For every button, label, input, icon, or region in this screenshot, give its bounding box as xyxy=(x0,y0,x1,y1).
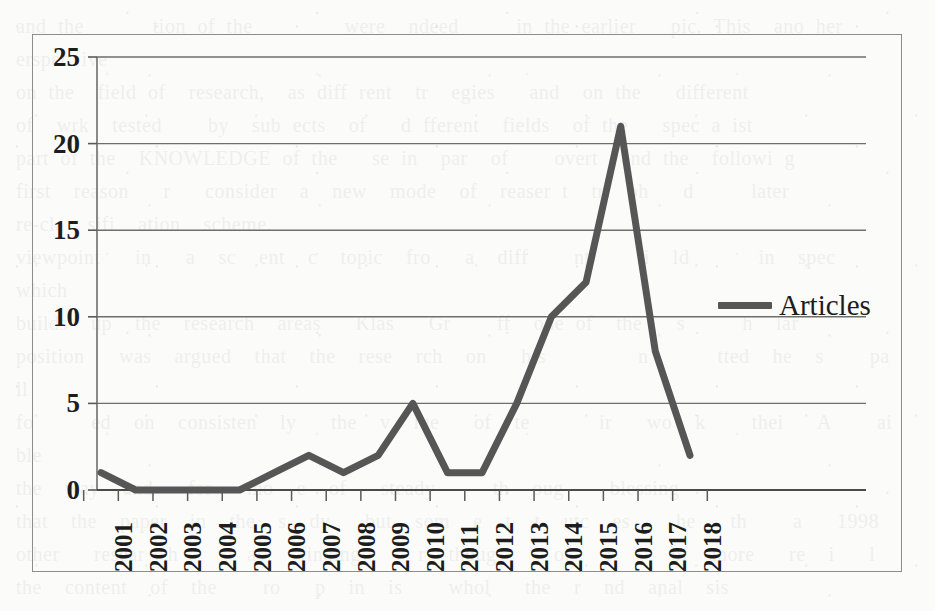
legend-label-articles: Articles xyxy=(779,289,871,322)
x-axis-tick-label: 2007 xyxy=(318,522,346,572)
y-axis-tick-label: 10 xyxy=(28,301,80,332)
x-axis-tick-label: 2004 xyxy=(214,522,242,572)
x-axis-tick-label: 2015 xyxy=(595,522,623,572)
x-axis-tick-label: 2018 xyxy=(699,522,727,572)
legend-swatch-articles xyxy=(718,302,772,309)
axis-lines xyxy=(97,57,866,490)
x-axis-tick-label: 2009 xyxy=(387,522,415,572)
y-axis-tick-marks xyxy=(88,57,97,490)
chart-page: and the tion of the were ndeed in the ea… xyxy=(0,0,935,611)
chart-legend: Articles xyxy=(718,289,871,322)
x-axis-tick-label: 2011 xyxy=(456,523,484,572)
y-axis-tick-label: 20 xyxy=(28,128,80,159)
x-axis-tick-label: 2012 xyxy=(491,522,519,572)
x-axis-tick-label: 2003 xyxy=(179,522,207,572)
x-axis-tick-label: 2010 xyxy=(422,522,450,572)
y-axis-tick-label: 0 xyxy=(28,475,80,506)
y-axis-tick-label: 25 xyxy=(28,42,80,73)
x-axis-tick-label: 2005 xyxy=(249,522,277,572)
gridlines xyxy=(97,57,866,403)
x-axis-tick-label: 2016 xyxy=(630,522,658,572)
data-series-group xyxy=(101,126,690,490)
x-axis-tick-label: 2013 xyxy=(526,522,554,572)
y-axis-tick-label: 15 xyxy=(28,215,80,246)
x-axis-tick-label: 2001 xyxy=(110,522,138,572)
y-axis-tick-label: 5 xyxy=(28,388,80,419)
x-axis-tick-label: 2002 xyxy=(145,522,173,572)
x-axis-tick-label: 2008 xyxy=(353,522,381,572)
x-axis-tick-label: 2014 xyxy=(560,522,588,572)
x-axis-tick-label: 2006 xyxy=(283,522,311,572)
x-axis-tick-label: 2017 xyxy=(664,522,692,572)
